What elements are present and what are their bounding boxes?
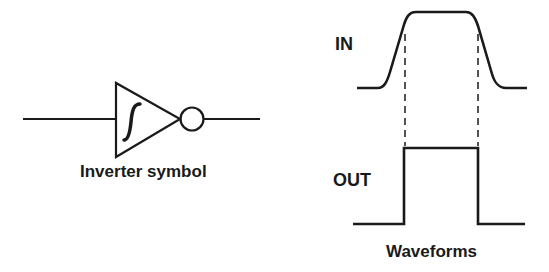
inversion-bubble [181,108,204,131]
inverter-triangle [116,83,180,157]
output-waveform [353,148,525,224]
input-label: IN [335,34,353,55]
waveforms-caption: Waveforms [386,242,477,262]
diagram-canvas [0,0,549,272]
output-label: OUT [333,170,371,191]
inverter-caption: Inverter symbol [80,162,207,182]
input-waveform [357,12,527,88]
hysteresis-icon [124,104,140,140]
